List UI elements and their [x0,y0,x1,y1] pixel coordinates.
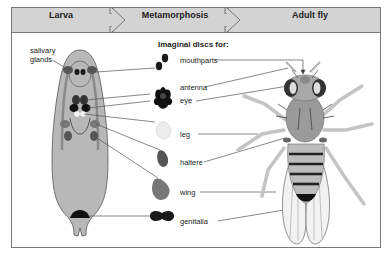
stage-label-adult-fly: Adult fly [241,9,379,21]
disc-leg [156,122,170,139]
label-eye: eye [180,96,192,105]
stage-label-larva: Larva [14,9,108,21]
label-salivary-glands: salivary glands [30,46,55,64]
label-antenna: antenna [180,83,207,92]
label-wing: wing [180,188,195,197]
stage-label-metamorphosis: Metamorphosis [126,9,224,21]
metamorphosis-diagram: Larva Metamorphosis Adult fly salivary g… [0,0,392,256]
label-genitalia: genitalia [180,217,208,226]
label-leg: leg [180,130,190,139]
label-mouthparts: mouthparts [180,56,218,65]
larva-illustration [52,50,108,236]
disc-mouthparts [156,62,162,70]
imaginal-discs-title: Imaginal discs for: [158,40,229,49]
label-salivary-line-1: salivary [30,46,55,55]
label-haltere: haltere [180,158,203,167]
label-salivary-line-2: glands [30,55,55,64]
